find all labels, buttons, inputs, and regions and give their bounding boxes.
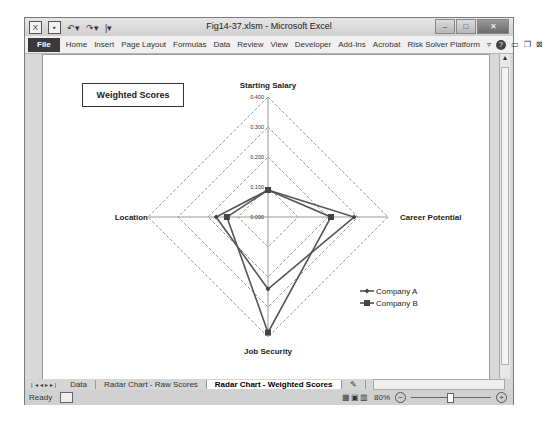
tick-label: 0.000 [250, 214, 264, 220]
radar-labels: Starting SalaryCareer PotentialJob Secur… [115, 81, 462, 356]
square-marker-icon [265, 330, 271, 336]
tick-label: 0.100 [250, 184, 264, 190]
series-line [216, 190, 354, 289]
tick-label: 0.300 [250, 124, 264, 130]
diamond-marker-icon [365, 289, 370, 294]
tick-label: 0.200 [250, 154, 264, 160]
tick-label: 0.400 [250, 94, 264, 100]
category-label: Starting Salary [240, 81, 297, 90]
radar-series [214, 187, 357, 336]
legend-label: Company B [376, 299, 418, 308]
category-label: Location [115, 213, 148, 222]
square-marker-icon [224, 214, 230, 220]
legend-label: Company A [376, 287, 418, 296]
radar-axes: 0.0000.1000.2000.3000.400 [148, 94, 388, 337]
category-label: Career Potential [400, 213, 461, 222]
chart-legend: Company ACompany B [360, 287, 418, 308]
square-marker-icon [364, 300, 370, 306]
square-marker-icon [328, 214, 334, 220]
square-marker-icon [265, 187, 271, 193]
category-label: Job Security [244, 347, 293, 356]
